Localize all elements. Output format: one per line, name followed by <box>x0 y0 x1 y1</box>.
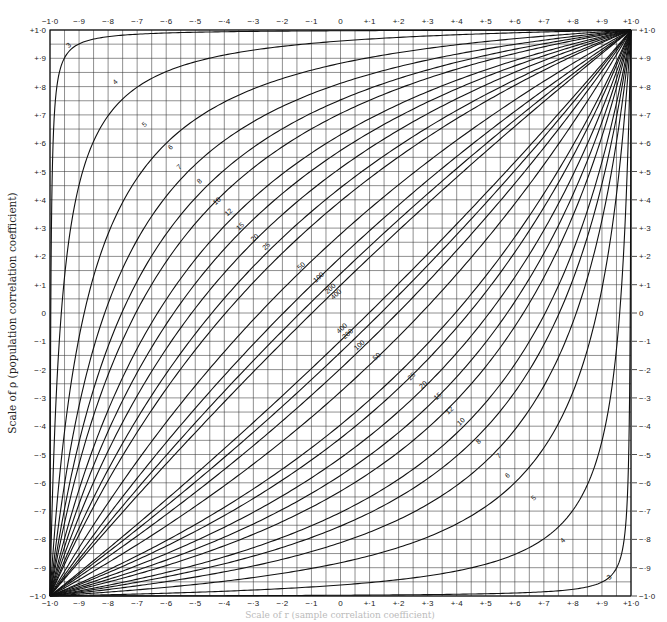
y-tick-label-right: −·9 <box>639 564 651 573</box>
y-tick-label-right: +·2 <box>639 252 651 261</box>
y-tick-label-left: −·4 <box>34 422 46 431</box>
x-tick-label-top: +·4 <box>451 17 463 26</box>
y-tick-label-left: +·4 <box>34 196 46 205</box>
y-tick-label-right: 0 <box>639 309 644 318</box>
y-tick-label-right: −·7 <box>639 507 651 516</box>
x-tick-label-top: +·7 <box>538 17 550 26</box>
x-tick-label-bottom: −·8 <box>102 599 114 608</box>
grid <box>50 30 631 596</box>
y-tick-label-right: +·9 <box>639 54 651 63</box>
x-tick-label-bottom: +·8 <box>567 599 579 608</box>
x-tick-label-top: −1·0 <box>42 17 59 26</box>
y-tick-label-right: +·3 <box>639 224 651 233</box>
x-tick-label-bottom: −·9 <box>73 599 85 608</box>
y-tick-label-right: −·2 <box>639 366 651 375</box>
y-tick-label-right: +·4 <box>639 196 651 205</box>
x-tick-label-bottom: −·1 <box>306 599 318 608</box>
x-tick-label-bottom: +·7 <box>538 599 550 608</box>
y-tick-label-left: +·8 <box>34 83 46 92</box>
x-tick-label-top: −·1 <box>306 17 318 26</box>
x-tick-label-bottom: +·9 <box>596 599 608 608</box>
x-tick-label-top: −·5 <box>189 17 201 26</box>
x-tick-label-top: +·3 <box>422 17 434 26</box>
x-tick-label-bottom: +·2 <box>393 599 405 608</box>
correlation-confidence-chart: 3456781012152025501002004004002001005025… <box>0 0 667 622</box>
y-tick-label-right: +·8 <box>639 83 651 92</box>
y-tick-label-left: 0 <box>42 309 47 318</box>
x-tick-label-bottom: +·6 <box>509 599 521 608</box>
x-tick-label-bottom: −·5 <box>189 599 201 608</box>
x-tick-label-top: +·9 <box>596 17 608 26</box>
y-tick-label-right: −·6 <box>639 479 651 488</box>
x-tick-label-bottom: +·3 <box>422 599 434 608</box>
y-tick-label-right: −·3 <box>639 394 651 403</box>
y-tick-label-right: +1·0 <box>639 26 656 35</box>
x-tick-label-bottom: 0 <box>338 599 343 608</box>
y-tick-label-left: −·3 <box>34 394 46 403</box>
y-tick-label-left: +·9 <box>34 54 46 63</box>
y-tick-label-left: −·6 <box>34 479 46 488</box>
x-tick-label-bottom: −·4 <box>218 599 230 608</box>
x-tick-label-top: +·2 <box>393 17 405 26</box>
y-tick-label-right: −·1 <box>639 337 651 346</box>
x-tick-label-top: −·9 <box>73 17 85 26</box>
x-tick-label-top: 0 <box>338 17 343 26</box>
x-tick-label-bottom: +1·0 <box>623 599 640 608</box>
x-tick-label-top: −·3 <box>247 17 259 26</box>
y-tick-label-left: −·9 <box>34 564 46 573</box>
x-tick-label-top: −·2 <box>277 17 289 26</box>
y-tick-label-left: +·2 <box>34 252 46 261</box>
y-tick-label-left: +1·0 <box>30 26 47 35</box>
y-tick-label-left: −·2 <box>34 366 46 375</box>
x-tick-label-top: −·8 <box>102 17 114 26</box>
x-tick-label-top: +·6 <box>509 17 521 26</box>
x-tick-label-top: +·8 <box>567 17 579 26</box>
x-tick-label-bottom: +·5 <box>480 599 492 608</box>
y-tick-label-right: −1·0 <box>639 592 656 601</box>
x-axis-label: Scale of r (sample correlation coefficie… <box>245 610 435 620</box>
x-tick-label-bottom: −·2 <box>277 599 289 608</box>
y-axis-label: Scale of ρ (population correlation coeff… <box>6 192 18 433</box>
x-tick-label-top: +1·0 <box>623 17 640 26</box>
y-tick-label-left: +·3 <box>34 224 46 233</box>
y-tick-label-left: −1·0 <box>30 592 47 601</box>
x-tick-label-top: −·6 <box>160 17 172 26</box>
y-tick-label-left: +·6 <box>34 139 46 148</box>
y-tick-label-right: +·7 <box>639 111 651 120</box>
y-tick-label-left: −·5 <box>34 451 46 460</box>
x-tick-label-top: +·5 <box>480 17 492 26</box>
x-tick-label-bottom: +·1 <box>364 599 376 608</box>
x-tick-label-top: −·4 <box>218 17 230 26</box>
y-tick-label-right: −·8 <box>639 535 651 544</box>
y-tick-label-right: +·1 <box>639 281 651 290</box>
y-tick-label-right: +·5 <box>639 168 651 177</box>
y-tick-label-right: +·6 <box>639 139 651 148</box>
y-tick-label-left: +·1 <box>34 281 46 290</box>
y-tick-label-left: +·5 <box>34 168 46 177</box>
y-tick-label-left: +·7 <box>34 111 46 120</box>
x-tick-label-bottom: −·3 <box>247 599 259 608</box>
x-tick-label-top: −·7 <box>131 17 143 26</box>
x-tick-label-bottom: −·6 <box>160 599 172 608</box>
y-tick-label-left: −·1 <box>34 337 46 346</box>
x-tick-label-top: +·1 <box>364 17 376 26</box>
y-tick-label-right: −·4 <box>639 422 651 431</box>
y-tick-label-right: −·5 <box>639 451 651 460</box>
x-tick-label-bottom: +·4 <box>451 599 463 608</box>
y-tick-label-left: −·7 <box>34 507 46 516</box>
y-tick-label-left: −·8 <box>34 535 46 544</box>
x-tick-label-bottom: −·7 <box>131 599 143 608</box>
